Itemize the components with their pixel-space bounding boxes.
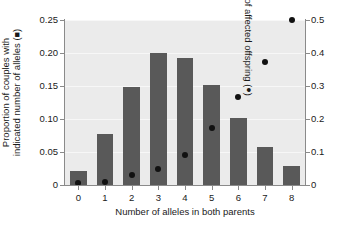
data-point-8: [289, 17, 295, 23]
bottom-tick: [132, 186, 133, 190]
bar-8: [283, 166, 300, 185]
data-point-7: [262, 59, 268, 65]
bar-7: [257, 147, 274, 185]
right-tick: [306, 86, 310, 87]
x-tick-label-7: 7: [255, 193, 275, 203]
left-tick: [60, 53, 64, 54]
bottom-tick: [158, 186, 159, 190]
left-tick: [60, 185, 64, 186]
x-tick-label-3: 3: [148, 193, 168, 203]
left-axis-title-text: indicated number of alleles (: [11, 37, 22, 156]
bar-legend-square-icon: ■: [12, 32, 22, 37]
left-axis-title-line1: Proportion of couples with: [0, 10, 11, 175]
x-tick-label-1: 1: [95, 193, 115, 203]
x-tick-label-2: 2: [122, 193, 142, 203]
data-point-1: [102, 179, 108, 185]
bottom-tick: [212, 186, 213, 190]
right-tick-label: 0.3: [311, 81, 345, 91]
data-point-4: [182, 152, 188, 158]
left-tick-label: 0.25: [24, 15, 58, 25]
bottom-tick: [105, 186, 106, 190]
left-axis-title: Proportion of couples with indicated num…: [0, 10, 24, 175]
right-tick-label: 0.4: [311, 48, 345, 58]
gridline: [65, 53, 305, 54]
right-axis-spine: [305, 19, 306, 186]
right-axis-title: Proportion of affected offspring (●): [243, 0, 255, 106]
x-tick-label-8: 8: [282, 193, 302, 203]
left-tick-label: 0.05: [24, 147, 58, 157]
x-axis-title: Number of alleles in both parents: [65, 206, 305, 217]
right-tick: [306, 152, 310, 153]
bar-5: [203, 85, 220, 185]
left-tick-label: 0.20: [24, 48, 58, 58]
right-tick: [306, 53, 310, 54]
left-axis-title-line2: indicated number of alleles (■): [11, 10, 23, 175]
bar-1: [97, 134, 114, 186]
x-tick-label-0: 0: [68, 193, 88, 203]
data-point-5: [209, 125, 215, 131]
left-tick: [60, 119, 64, 120]
plot-area: [65, 20, 305, 185]
left-tick-label: 0.10: [24, 114, 58, 124]
data-point-2: [129, 172, 135, 178]
right-tick: [306, 185, 310, 186]
left-tick-label: 0: [24, 180, 58, 190]
right-axis-title-text: Proportion of affected offspring (: [243, 0, 254, 87]
bar-6: [230, 118, 247, 185]
bar-2: [123, 87, 140, 185]
bottom-tick: [185, 186, 186, 190]
right-axis-title-close: ): [243, 93, 254, 96]
bottom-tick: [292, 186, 293, 190]
right-tick-label: 0.5: [311, 15, 345, 25]
right-tick: [306, 119, 310, 120]
left-tick: [60, 152, 64, 153]
chart-figure: Proportion of couples with indicated num…: [0, 0, 353, 227]
data-point-6: [235, 94, 241, 100]
bar-4: [177, 58, 194, 185]
data-point-3: [155, 166, 161, 172]
right-tick-label: 0.1: [311, 147, 345, 157]
bottom-tick: [238, 186, 239, 190]
left-tick: [60, 20, 64, 21]
left-tick-label: 0.15: [24, 81, 58, 91]
x-tick-label-4: 4: [175, 193, 195, 203]
left-axis-spine: [64, 19, 65, 186]
right-tick: [306, 20, 310, 21]
right-tick-label: 0.2: [311, 114, 345, 124]
left-tick: [60, 86, 64, 87]
bottom-tick: [265, 186, 266, 190]
x-tick-label-5: 5: [202, 193, 222, 203]
gridline: [65, 20, 305, 21]
right-tick-label: 0: [311, 180, 345, 190]
x-tick-label-6: 6: [228, 193, 248, 203]
left-axis-title-close: ): [11, 29, 22, 32]
bottom-tick: [78, 186, 79, 190]
